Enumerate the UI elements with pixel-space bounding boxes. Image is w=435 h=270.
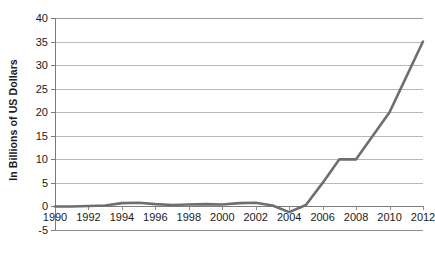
y-tick-label-35: 35 (36, 36, 48, 48)
y-tick-label-40: 40 (36, 12, 48, 24)
series-line-chart (55, 18, 423, 230)
y-tick-label-20: 20 (36, 106, 48, 118)
x-tick-label-2008: 2008 (344, 211, 368, 223)
y-tick-label-30: 30 (36, 59, 48, 71)
x-axis-baseline (55, 230, 423, 231)
y-tick-label-5: 5 (42, 177, 48, 189)
y-tick-label--5: -5 (38, 224, 48, 236)
x-tick-label-1994: 1994 (110, 211, 134, 223)
x-tick-label-2010: 2010 (377, 211, 401, 223)
y-tick-label-25: 25 (36, 83, 48, 95)
x-tick-label-1996: 1996 (143, 211, 167, 223)
y-tick-label-10: 10 (36, 153, 48, 165)
x-tick-label-2006: 2006 (310, 211, 334, 223)
y-axis-title: In Billions of US Dollars (0, 0, 26, 240)
x-tick-label-2002: 2002 (243, 211, 267, 223)
x-tick-label-1998: 1998 (177, 211, 201, 223)
plot-area: 4035302520151050-5 (55, 18, 423, 230)
y-axis-title-label: In Billions of US Dollars (7, 59, 19, 181)
x-tick-label-2004: 2004 (277, 211, 301, 223)
x-tick-label-2012: 2012 (411, 211, 435, 223)
x-tick-label-1992: 1992 (76, 211, 100, 223)
series-line-path (55, 42, 423, 213)
figure-caption (6, 262, 306, 270)
y-tick-label-15: 15 (36, 130, 48, 142)
x-tick-mark-2012 (423, 206, 424, 210)
x-tick-label-1990: 1990 (43, 211, 67, 223)
x-tick-label-2000: 2000 (210, 211, 234, 223)
